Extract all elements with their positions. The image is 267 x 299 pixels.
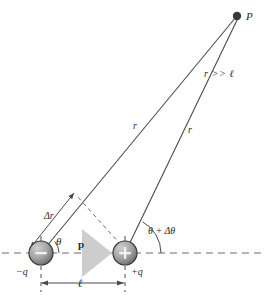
- r-line-negative-charge: [41, 17, 236, 253]
- charge-positive-label: +q: [131, 266, 143, 277]
- delta-r-label: Δr: [43, 210, 54, 221]
- charge-positive: [113, 241, 137, 265]
- r-label-left: r: [133, 120, 137, 131]
- charge-negative: [29, 241, 53, 265]
- theta-label: θ: [56, 235, 62, 247]
- theta-plus-delta-theta-label: θ + Δθ: [148, 225, 175, 236]
- dipole-moment-label: p: [78, 238, 84, 250]
- charge-negative-label: −q: [16, 266, 28, 277]
- dipole-figure: P r >> ℓ r r Δr θ θ + Δθ p −q +q ℓ: [0, 0, 267, 299]
- r-label-right: r: [188, 124, 192, 135]
- far-field-condition-label: r >> ℓ: [204, 68, 234, 79]
- dipole-diagram-canvas: P r >> ℓ r r Δr θ θ + Δθ p −q +q ℓ: [0, 0, 267, 299]
- r-line-positive-charge: [125, 18, 238, 253]
- field-point-p: [233, 12, 241, 20]
- point-p-label: P: [245, 10, 253, 22]
- separation-label: ℓ: [78, 277, 83, 289]
